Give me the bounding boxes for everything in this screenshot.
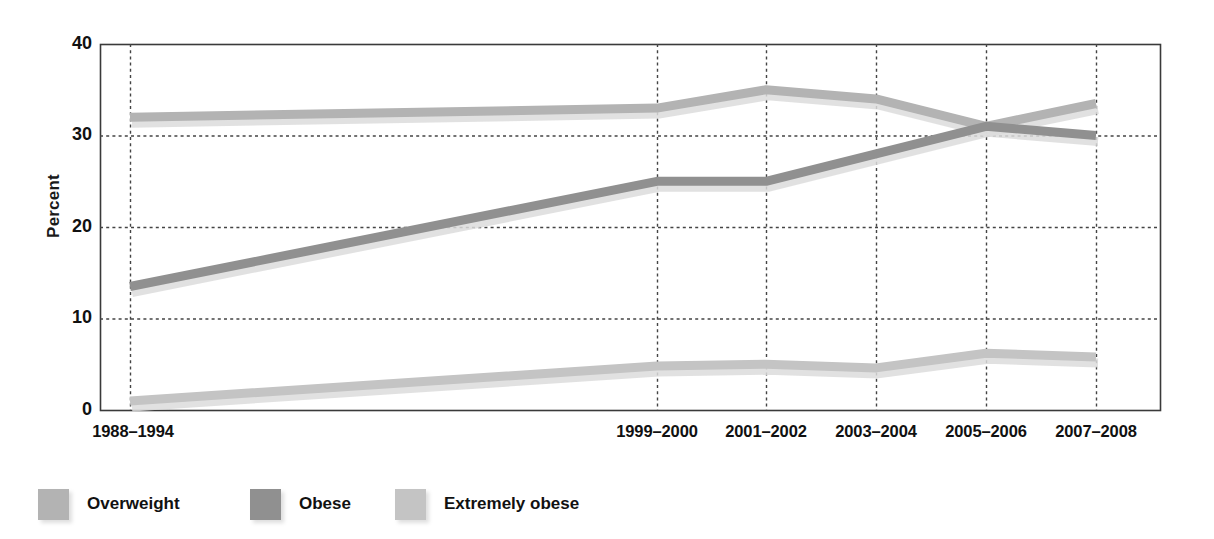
horizontal-gridlines	[100, 136, 1160, 319]
legend-swatch-extremely-obese	[395, 489, 426, 520]
chart-figure: Percent 40 30 20 10 0 1988–1994 1999–200…	[0, 0, 1214, 539]
legend-item-extremely-obese[interactable]: Extremely obese	[395, 487, 579, 521]
legend-item-overweight[interactable]: Overweight	[38, 487, 180, 521]
legend-label-extremely-obese: Extremely obese	[444, 494, 579, 514]
series-obese	[130, 126, 1098, 292]
series-overweight	[130, 90, 1098, 133]
plot-area	[0, 0, 1214, 470]
series-shadow	[132, 132, 1098, 292]
series-extremely-obese	[130, 353, 1098, 407]
legend-swatch-obese	[250, 489, 281, 520]
legend-item-obese[interactable]: Obese	[250, 487, 351, 521]
legend-swatch-overweight	[38, 489, 69, 520]
legend-label-overweight: Overweight	[87, 494, 180, 514]
series-layer	[130, 90, 1098, 407]
legend-label-obese: Obese	[299, 494, 351, 514]
